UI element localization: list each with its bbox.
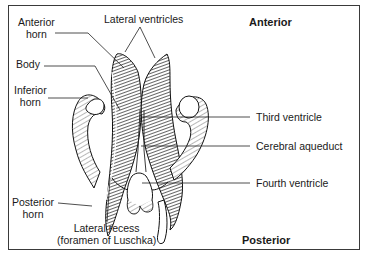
label-lateral-recess: Lateral recess (foramen of Luschka) [57, 222, 156, 246]
orientation-posterior: Posterior [242, 234, 290, 246]
label-cerebral-aqueduct: Cerebral aqueduct [256, 140, 342, 152]
label-third-ventricle: Third ventricle [256, 111, 322, 123]
label-inferior-horn-line1: Inferior [14, 84, 47, 96]
label-body: Body [16, 58, 40, 70]
orientation-anterior: Anterior [249, 16, 292, 28]
label-posterior-horn-line2: horn [12, 208, 54, 220]
label-lateral-recess-line2: (foramen of Luschka) [57, 234, 156, 246]
label-fourth-ventricle: Fourth ventricle [256, 177, 328, 189]
label-inferior-horn-line2: horn [14, 96, 47, 108]
label-anterior-horn-line2: horn [18, 28, 55, 40]
left-inferior-horn-shape [72, 95, 104, 188]
label-anterior-horn: Anterior horn [18, 16, 55, 40]
label-posterior-horn: Posterior horn [12, 196, 54, 220]
label-anterior-horn-line1: Anterior [18, 16, 55, 28]
ventricular-system-illustration [0, 0, 370, 257]
label-posterior-horn-line1: Posterior [12, 196, 54, 208]
label-lateral-recess-line1: Lateral recess [57, 222, 156, 234]
right-posterior-horn-shape [157, 200, 167, 244]
label-lateral-ventricles: Lateral ventricles [104, 13, 183, 25]
label-inferior-horn: Inferior horn [14, 84, 47, 108]
